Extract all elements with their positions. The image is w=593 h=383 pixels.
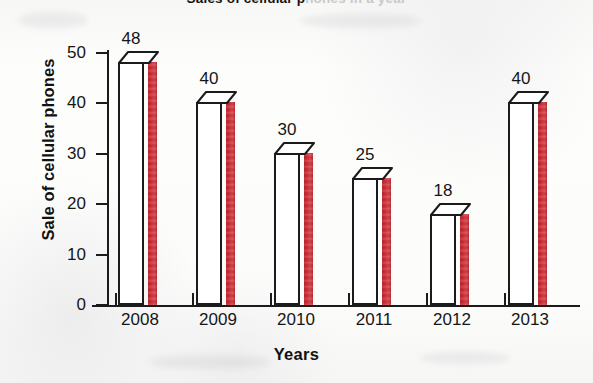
x-axis-label-2013: 2013: [490, 311, 570, 328]
x-axis-title: Years: [0, 345, 593, 364]
x-axis-label-2011: 2011: [334, 311, 414, 328]
chart-title-faded: hones in a year: [305, 0, 406, 6]
y-tick-0: [96, 304, 108, 306]
y-axis-title: Sale of cellular phones: [39, 30, 58, 270]
bar-front-2008: [118, 62, 144, 305]
x-axis-label-2008: 2008: [100, 311, 180, 328]
bar-top-2013: [508, 91, 544, 102]
x-axis-label-2009: 2009: [178, 311, 258, 328]
bar-value-2013: 40: [486, 70, 556, 87]
y-tick-50: [96, 52, 108, 54]
scan-smudge: [18, 12, 88, 28]
bar-front-2013: [508, 102, 534, 305]
chart-title: Sales of cellular phones in a year: [0, 0, 593, 6]
x-axis-label-2012: 2012: [412, 311, 492, 328]
bar-value-2011: 25: [330, 146, 400, 163]
chart-page: Sales of cellular phones in a year 0 10 …: [0, 0, 593, 383]
bar-front-2010: [274, 153, 300, 305]
bar-top-2012: [430, 203, 466, 214]
plot-area: 48 40 30: [108, 52, 576, 305]
bar-top-2009: [196, 91, 232, 102]
bar-side-2010: [304, 153, 313, 305]
y-tick-20: [96, 203, 108, 205]
bar-value-2008: 48: [96, 30, 166, 47]
y-tick-label-0: 0: [40, 296, 86, 313]
bar-top-2008: [118, 51, 154, 62]
bar-top-2011: [352, 167, 388, 178]
bar-front-2009: [196, 102, 222, 305]
bar-front-2011: [352, 178, 378, 305]
x-axis-line: [92, 305, 580, 307]
y-tick-30: [96, 153, 108, 155]
bar-side-2012: [460, 214, 469, 305]
bar-value-2012: 18: [408, 182, 478, 199]
bar-side-2013: [538, 102, 547, 305]
bar-value-2009: 40: [174, 70, 244, 87]
scan-smudge: [300, 14, 420, 28]
bar-top-2010: [274, 142, 310, 153]
bar-side-2009: [226, 102, 235, 305]
bar-side-2011: [382, 178, 391, 305]
y-tick-10: [96, 254, 108, 256]
bar-side-2008: [148, 62, 157, 305]
bar-value-2010: 30: [252, 121, 322, 138]
y-tick-40: [96, 102, 108, 104]
chart-title-visible: Sales of cellular p: [187, 0, 306, 6]
x-axis-label-2010: 2010: [256, 311, 336, 328]
bar-front-2012: [430, 214, 456, 305]
